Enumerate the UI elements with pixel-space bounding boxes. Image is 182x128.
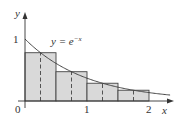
origin-label: 0 bbox=[15, 103, 21, 115]
y-axis-label: y bbox=[14, 7, 20, 19]
y-axis-arrow-icon bbox=[23, 12, 28, 19]
x-tick-1: 1 bbox=[84, 103, 90, 115]
function-label: y = e−x bbox=[50, 35, 82, 47]
plot-area: y x 0 1 2 1 y = e−x bbox=[0, 0, 182, 128]
x-axis-label: x bbox=[161, 104, 167, 116]
rectangles bbox=[25, 53, 149, 101]
x-tick-2: 2 bbox=[146, 103, 152, 115]
y-tick-1: 1 bbox=[13, 33, 19, 45]
midpoint-rule-diagram: y x 0 1 2 1 y = e−x bbox=[0, 0, 182, 128]
x-axis-arrow-icon bbox=[167, 99, 174, 104]
